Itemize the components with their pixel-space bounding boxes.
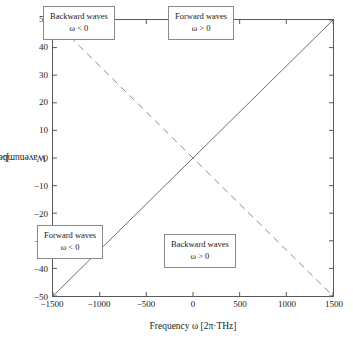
annotation-lower-left-line1: Forward waves xyxy=(44,229,96,241)
annotation-upper-left-line1: Backward waves xyxy=(50,10,108,22)
y-tick-label: 10 xyxy=(39,126,48,135)
y-tick-label: 0 xyxy=(44,154,49,163)
y-tick-label: 40 xyxy=(39,42,48,51)
annotation-box-lower-right: Backward waves ω > 0 xyxy=(164,234,236,268)
x-tick-label: 500 xyxy=(233,300,247,309)
y-tick-label: 20 xyxy=(39,98,48,107)
x-tick-label: 1500 xyxy=(325,300,343,309)
y-axis-title-text: Wavenumber β [μm−1] xyxy=(3,154,13,161)
x-tick-label: −1500 xyxy=(40,300,63,309)
annotation-box-upper-left: Backward waves ω < 0 xyxy=(43,6,115,40)
annotation-box-upper-right: Forward waves ω > 0 xyxy=(168,6,234,40)
y-axis-title-suffix: ] xyxy=(6,153,9,163)
dispersion-diagram-figure: Wavenumber β [μm−1] 50403020100−10−20−30… xyxy=(0,0,353,345)
annotation-box-lower-left: Forward waves ω < 0 xyxy=(37,225,103,259)
x-axis-title: Frequency ω [2π·THz] xyxy=(52,321,334,331)
annotation-lower-left-line2: ω < 0 xyxy=(44,241,96,253)
x-tick-label: −500 xyxy=(137,300,156,309)
annotation-upper-right-line1: Forward waves xyxy=(175,10,227,22)
x-tick-label: 0 xyxy=(191,300,196,309)
y-tick-label: 30 xyxy=(39,70,48,79)
y-tick-label: −20 xyxy=(34,209,48,218)
x-tick-label: −1000 xyxy=(87,300,110,309)
y-tick-label: −10 xyxy=(34,181,48,190)
annotation-lower-right-line1: Backward waves xyxy=(171,238,229,250)
annotation-lower-right-line2: ω > 0 xyxy=(171,250,229,262)
annotation-upper-right-line2: ω > 0 xyxy=(175,22,227,34)
y-tick-label: −40 xyxy=(34,265,48,274)
annotation-upper-left-line2: ω < 0 xyxy=(50,22,108,34)
x-tick-label: 1000 xyxy=(278,300,296,309)
x-axis-tick-labels: −1500−1000−500050010001500 xyxy=(52,300,334,314)
